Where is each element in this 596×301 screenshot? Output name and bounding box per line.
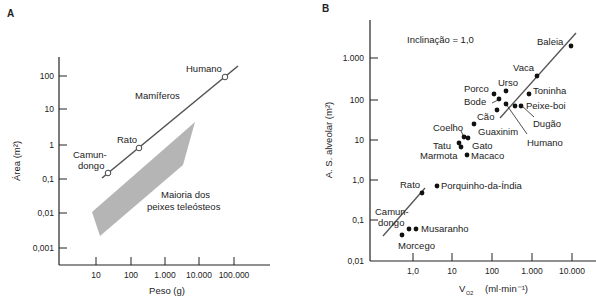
label-humano: Humano xyxy=(527,137,563,148)
point-camundongo xyxy=(105,170,111,176)
fish-region xyxy=(92,122,195,236)
point-coelho xyxy=(462,135,467,140)
label-bode: Bode xyxy=(464,96,486,107)
b-x-axis-title: V O2 (ml·min⁻¹) xyxy=(459,283,528,296)
label-peixe-boi: Peixe-boi xyxy=(526,100,566,111)
a-ytick-0-001: 0,001 xyxy=(33,243,55,253)
label-camundongo-2: dongo xyxy=(78,160,104,171)
point-rato xyxy=(136,145,142,151)
label-mamiferos: Mamíferos xyxy=(135,90,180,101)
a-x-axis-title: Peso (g) xyxy=(149,285,185,296)
point-musaranho xyxy=(414,227,419,232)
b-xtick-10000: 10.000 xyxy=(559,266,585,276)
label-rato: Rato xyxy=(400,179,420,190)
label-peixes-1: Maioria dos xyxy=(161,189,210,200)
point-humano xyxy=(222,74,228,80)
b-ytick-1: 1,0 xyxy=(352,175,364,185)
a-xtick-100: 100 xyxy=(124,270,138,280)
point-vaca xyxy=(535,74,540,79)
point-humano xyxy=(504,102,509,107)
a-xtick-100000: 100.000 xyxy=(219,270,250,280)
a-ytick-1: 1 xyxy=(49,140,54,150)
a-ytick-100: 100 xyxy=(40,71,54,81)
label-vaca: Vaca xyxy=(513,62,535,73)
panel-a-letter: A xyxy=(7,8,14,19)
b-xtick-1: 1,0 xyxy=(407,266,419,276)
label-peixes-2: peixes teleósteos xyxy=(147,201,221,212)
b-xtick-100: 100 xyxy=(485,266,499,276)
a-ytick-0-1: 0,1 xyxy=(42,174,54,184)
b-ytick-1000: 1.000 xyxy=(343,53,365,63)
point-peixe-boi xyxy=(513,104,518,109)
point-porco xyxy=(492,92,497,97)
label-porco: Porco xyxy=(464,83,489,94)
label-urso: Urso xyxy=(498,77,518,88)
label-humano: Humano xyxy=(186,63,222,74)
a-ytick-0-01: 0,01 xyxy=(37,208,54,218)
label-morcego: Morcego xyxy=(398,240,435,251)
a-xtick-10: 10 xyxy=(91,270,101,280)
a-y-axis-title: Área (m²) xyxy=(11,141,22,181)
a-y-ticks xyxy=(59,76,67,248)
b-ytick-0-01: 0,01 xyxy=(347,256,364,266)
point-rato xyxy=(420,191,425,196)
label-camundongo-1: Camun- xyxy=(375,206,409,217)
a-xtick-10000: 10.000 xyxy=(186,270,212,280)
svg-text:(ml·min⁻¹): (ml·min⁻¹) xyxy=(485,283,528,294)
label-macaco: Macaco xyxy=(471,150,504,161)
label-marmota: Marmota xyxy=(420,150,458,161)
point-urso xyxy=(504,89,509,94)
point-porquinho xyxy=(435,184,440,189)
point-macaco xyxy=(465,153,470,158)
label-camundongo-1: Camun- xyxy=(73,149,107,160)
panel-b: B 1.000 100 10 1,0 0,1 0,01 1,0 10 100 1… xyxy=(322,3,596,296)
point-baleia xyxy=(569,44,574,49)
a-ytick-10: 10 xyxy=(45,104,55,114)
b-xtick-1000: 1.000 xyxy=(521,266,543,276)
svg-text:V: V xyxy=(459,283,466,294)
b-ytick-0-1: 0,1 xyxy=(352,215,364,225)
label-camundongo-2: dongo xyxy=(378,217,404,228)
panel-b-letter: B xyxy=(322,3,329,14)
b-xtick-10: 10 xyxy=(447,266,457,276)
b-y-ticks xyxy=(370,58,378,220)
point-dugao xyxy=(519,104,524,109)
point-bode xyxy=(497,97,502,102)
a-x-ticks xyxy=(96,257,234,265)
label-porquinho: Porquinho-da-Índia xyxy=(441,180,523,191)
panel-a: A 100 10 1 0,1 0,01 0,001 10 100 xyxy=(7,8,270,296)
slope-label: Inclinação = 1,0 xyxy=(407,34,474,45)
label-baleia: Baleia xyxy=(537,36,564,47)
a-xtick-1000: 1.000 xyxy=(154,270,176,280)
b-y-axis-title: A. S. alveolar (m²) xyxy=(323,102,334,179)
point-marmota xyxy=(459,145,464,150)
label-cao: Cão xyxy=(477,111,494,122)
b-ytick-10: 10 xyxy=(355,135,365,145)
label-toninha: Toninha xyxy=(533,85,567,96)
label-musaranho: Musaranho xyxy=(421,223,469,234)
point-guaxinim xyxy=(472,122,477,127)
label-rato: Rato xyxy=(117,134,137,145)
point-camundongo xyxy=(407,227,412,232)
b-ytick-100: 100 xyxy=(350,95,364,105)
point-morcego xyxy=(400,233,405,238)
label-coelho: Coelho xyxy=(433,122,463,133)
point-cao xyxy=(495,108,500,113)
point-gato xyxy=(466,136,471,141)
figure: A 100 10 1 0,1 0,01 0,001 10 100 xyxy=(0,0,596,301)
b-x-ticks xyxy=(413,253,572,261)
label-guaxinim: Guaxinim xyxy=(478,126,518,137)
svg-text:O2: O2 xyxy=(466,290,473,296)
label-dugao: Dugão xyxy=(533,118,561,129)
point-toninha xyxy=(527,92,532,97)
